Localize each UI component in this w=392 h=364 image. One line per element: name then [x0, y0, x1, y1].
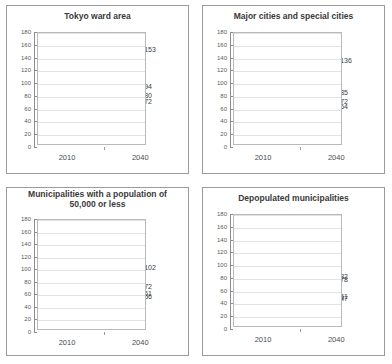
x-axis-tick-mark	[300, 329, 301, 332]
plot-area	[233, 32, 342, 145]
y-axis-tick-label: 0	[5, 329, 31, 335]
y-axis-tick-label: 100	[201, 262, 227, 268]
gridline	[38, 110, 145, 111]
chart-area: 0204060801001201401601808278514710020102…	[203, 188, 384, 355]
gridline	[234, 84, 341, 85]
y-axis-tick-label: 20	[201, 131, 227, 137]
x-axis-tick-mark	[104, 332, 105, 335]
y-axis-tick-label: 20	[5, 131, 31, 137]
y-axis-tick-label: 180	[201, 211, 227, 217]
gridline	[234, 135, 341, 136]
x-axis-tick-label: 2040	[328, 335, 345, 344]
y-axis-tick-label: 0	[201, 144, 227, 150]
y-axis-tick-label: 60	[5, 291, 31, 297]
y-axis-tick-label: 40	[201, 118, 227, 124]
chart-title: Major cities and special cities	[203, 11, 384, 21]
chart-title-line: 50,000 or less	[7, 199, 188, 209]
y-axis-tick-label: 180	[5, 216, 31, 222]
x-axis-tick-label: 2010	[255, 335, 272, 344]
gridline	[38, 233, 145, 234]
y-axis-tick-label: 120	[5, 254, 31, 260]
chart-area: 0204060801001201401601801539480721002010…	[7, 6, 188, 173]
gridline	[38, 270, 145, 271]
y-axis-tick-mark	[230, 329, 233, 330]
y-axis-tick-label: 140	[201, 237, 227, 243]
x-axis-tick-label: 2010	[59, 153, 76, 162]
y-axis-tick-label: 0	[5, 144, 31, 150]
x-axis-tick-label: 2040	[132, 338, 149, 347]
gridline	[38, 258, 145, 259]
y-axis-tick-mark	[230, 147, 233, 148]
plot-area	[37, 32, 146, 145]
chart-panel-3: Municipalities with a population of50,00…	[0, 182, 196, 364]
y-axis-tick-label: 80	[5, 279, 31, 285]
y-axis-tick-label: 120	[201, 249, 227, 255]
y-axis-tick-label: 100	[5, 266, 31, 272]
gridline	[234, 59, 341, 60]
plot-area	[37, 219, 146, 330]
gridline	[38, 71, 145, 72]
y-axis-tick-label: 140	[201, 55, 227, 61]
y-axis-tick-label: 180	[201, 29, 227, 35]
x-axis-tick-label: 2010	[255, 153, 272, 162]
gridline	[234, 317, 341, 318]
gridline	[38, 245, 145, 246]
y-axis-tick-label: 120	[201, 67, 227, 73]
chart-title: Depopulated municipalities	[203, 193, 384, 203]
gridline	[234, 110, 341, 111]
y-axis-tick-label: 80	[5, 93, 31, 99]
gridline	[234, 241, 341, 242]
gridline	[38, 308, 145, 309]
gridline	[38, 122, 145, 123]
gridline	[234, 253, 341, 254]
panel-border: Tokyo ward area0204060801001201401601801…	[6, 5, 189, 174]
chart-area: 0204060801001201401601801027261561002010…	[7, 188, 188, 355]
y-axis-tick-label: 60	[5, 106, 31, 112]
x-axis-tick-mark	[104, 147, 105, 150]
gridline	[234, 97, 341, 98]
x-axis-tick-label: 2010	[59, 338, 76, 347]
panel-border: Municipalities with a population of50,00…	[6, 187, 189, 356]
y-axis-tick-label: 0	[201, 326, 227, 332]
chart-title-line: Depopulated municipalities	[203, 193, 384, 203]
gridline	[234, 33, 341, 34]
plot-area	[233, 214, 342, 327]
gridline	[234, 71, 341, 72]
gridline	[38, 84, 145, 85]
y-axis-line	[34, 219, 35, 332]
y-axis-tick-label: 20	[5, 316, 31, 322]
chart-title-line: Municipalities with a population of	[7, 189, 188, 199]
y-axis-tick-label: 80	[201, 93, 227, 99]
gridline	[38, 295, 145, 296]
gridline	[38, 283, 145, 284]
chart-panel-1: Tokyo ward area0204060801001201401601801…	[0, 0, 196, 182]
gridline	[234, 215, 341, 216]
panel-border: Depopulated municipalities02040608010012…	[202, 187, 385, 356]
y-axis-tick-label: 120	[5, 67, 31, 73]
x-axis-tick-label: 2040	[328, 153, 345, 162]
chart-area: 0204060801001201401601801368572641002010…	[203, 6, 384, 173]
y-axis-tick-label: 40	[5, 304, 31, 310]
chart-title-line: Tokyo ward area	[7, 11, 188, 21]
gridline	[38, 46, 145, 47]
y-axis-tick-label: 160	[201, 224, 227, 230]
gridline	[234, 122, 341, 123]
y-axis-tick-label: 160	[5, 229, 31, 235]
y-axis-tick-label: 40	[5, 118, 31, 124]
y-axis-line	[34, 32, 35, 147]
gridline	[234, 228, 341, 229]
y-axis-tick-label: 160	[201, 42, 227, 48]
y-axis-tick-label: 180	[5, 29, 31, 35]
y-axis-tick-mark	[34, 332, 37, 333]
y-axis-tick-label: 60	[201, 288, 227, 294]
chart-grid: Tokyo ward area0204060801001201401601801…	[0, 0, 392, 364]
gridline	[234, 266, 341, 267]
y-axis-tick-mark	[34, 147, 37, 148]
gridline	[234, 292, 341, 293]
y-axis-tick-label: 60	[201, 106, 227, 112]
gridline	[38, 135, 145, 136]
y-axis-tick-label: 100	[5, 80, 31, 86]
y-axis-tick-label: 140	[5, 241, 31, 247]
chart-panel-4: Depopulated municipalities02040608010012…	[196, 182, 392, 364]
y-axis-line	[230, 214, 231, 329]
